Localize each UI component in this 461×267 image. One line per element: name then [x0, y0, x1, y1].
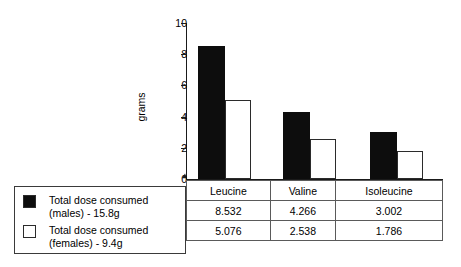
y-tick-mark-6 [181, 85, 187, 86]
y-axis-title: grams [121, 87, 161, 127]
bar-valine-females [310, 139, 336, 179]
y-axis-line [186, 23, 187, 180]
legend-label-females-line2: (females) - 9.4g [49, 237, 123, 249]
legend-label-males: Total dose consumed (males) - 15.8g [49, 194, 148, 219]
legend-label-males-line2: (males) - 15.8g [49, 207, 120, 219]
legend-item-females: Total dose consumed (females) - 9.4g [23, 224, 148, 249]
y-tick-mark-10 [181, 23, 187, 24]
y-tick-mark-2 [181, 148, 187, 149]
table-header-leucine: Leucine [187, 181, 271, 201]
legend-swatch-filled-icon [23, 195, 36, 208]
table-cell-males-isoleucine: 3.002 [335, 201, 442, 221]
bar-valine-males [283, 112, 310, 179]
table-row-header: Leucine Valine Isoleucine [187, 181, 443, 201]
bar-leucine-males [198, 46, 225, 179]
legend-label-males-line1: Total dose consumed [49, 194, 148, 206]
table-row: 8.532 4.266 3.002 [187, 201, 443, 221]
table-cell-females-isoleucine: 1.786 [335, 221, 442, 241]
table-cell-females-leucine: 5.076 [187, 221, 271, 241]
table-header-valine: Valine [270, 181, 335, 201]
table-cell-females-valine: 2.538 [270, 221, 335, 241]
table-cell-males-leucine: 8.532 [187, 201, 271, 221]
bar-leucine-females [225, 100, 251, 179]
legend-label-females: Total dose consumed (females) - 9.4g [49, 224, 148, 249]
table-header-isoleucine: Isoleucine [335, 181, 442, 201]
y-tick-0: 0 [150, 174, 187, 184]
legend-swatch-hollow-icon [23, 225, 36, 238]
y-tick-mark-4 [181, 117, 187, 118]
legend-item-males: Total dose consumed (males) - 15.8g [23, 194, 148, 219]
y-tick-mark-8 [181, 54, 187, 55]
table-cell-males-valine: 4.266 [270, 201, 335, 221]
legend: Total dose consumed (males) - 15.8g Tota… [14, 186, 186, 254]
table-row: 5.076 2.538 1.786 [187, 221, 443, 241]
legend-label-females-line1: Total dose consumed [49, 224, 148, 236]
bar-chart-figure: 10 8 6 4 2 0 grams Leucine Valine Isoleu… [0, 0, 461, 267]
data-table: Leucine Valine Isoleucine 8.532 4.266 3.… [186, 180, 443, 241]
bar-isoleucine-females [397, 151, 423, 179]
bar-isoleucine-males [370, 132, 397, 179]
